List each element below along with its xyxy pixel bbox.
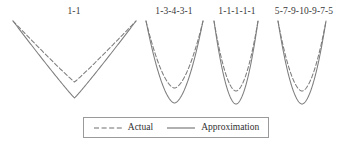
curve-3-approximation	[214, 21, 258, 104]
panel-label-3: 1-1-1-1-1	[204, 6, 270, 17]
panel-label-2: 1-3-4-3-1	[136, 6, 212, 17]
legend: Actual Approximation	[83, 117, 269, 138]
curve-3-actual	[214, 21, 258, 91]
panel-label-1: 1-1	[0, 6, 148, 17]
legend-label-actual: Actual	[128, 122, 153, 133]
curve-4-approximation	[278, 21, 326, 104]
curve-2-actual	[146, 21, 203, 88]
legend-label-approximation: Approximation	[201, 122, 259, 133]
figure-canvas: 1-1 1-3-4-3-1 1-1-1-1-1 5-7-9-10-9-7-5 A…	[0, 0, 351, 145]
panel-label-4: 5-7-9-10-9-7-5	[262, 6, 346, 17]
curve-1-approximation	[13, 21, 136, 98]
legend-swatch-dashed-icon	[93, 123, 123, 133]
legend-entry-approximation: Approximation	[166, 122, 259, 133]
curve-2-approximation	[146, 21, 203, 103]
legend-swatch-solid-icon	[166, 123, 196, 133]
curve-1-actual	[13, 21, 136, 82]
curve-4-actual	[278, 21, 326, 91]
legend-entry-actual: Actual	[93, 122, 153, 133]
